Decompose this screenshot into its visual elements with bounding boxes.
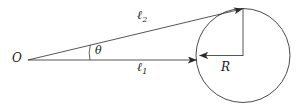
angle-arc	[89, 45, 90, 60]
segment-l2-subscript: 2	[142, 15, 147, 24]
segment-label-l1: ℓ1	[137, 61, 147, 76]
geometry-diagram: O θ R ℓ2 ℓ1	[0, 0, 302, 110]
segment-l1-subscript: 1	[142, 67, 147, 76]
segment-label-l2: ℓ2	[137, 9, 147, 24]
segment-l2-arrow	[28, 9, 243, 60]
radius-label-r: R	[221, 61, 230, 73]
angle-label-theta: θ	[95, 45, 102, 56]
diagram-canvas	[0, 0, 302, 110]
vertex-label-o: O	[12, 52, 22, 64]
